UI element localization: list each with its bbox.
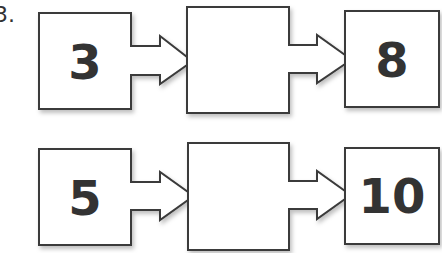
row-1: 3 8	[39, 7, 439, 113]
input-box-row-1	[39, 13, 187, 109]
output-value-row-2: 10	[359, 168, 426, 224]
input-box-row-2	[39, 149, 188, 245]
input-value-row-2: 5	[68, 170, 101, 226]
middle-box-row-1[interactable]	[187, 7, 345, 113]
output-value-row-1: 8	[375, 32, 408, 88]
function-machine-diagram: 3 8 5 10	[0, 0, 442, 253]
input-value-row-1: 3	[68, 34, 101, 90]
row-2: 5 10	[39, 143, 439, 250]
middle-box-row-2[interactable]	[188, 143, 345, 250]
